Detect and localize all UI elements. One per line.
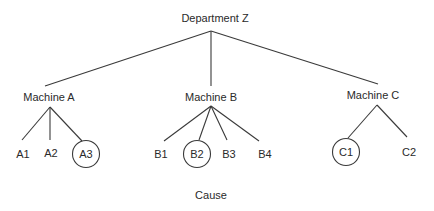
- node-c2: C2: [402, 146, 416, 158]
- node-machine-b: Machine B: [185, 91, 237, 103]
- edge-machine-a-to-a1: [22, 107, 50, 140]
- tree-edges: [0, 0, 434, 211]
- node-machine-c: Machine C: [347, 89, 400, 101]
- tree-diagram: Department Z Machine A Machine B Machine…: [0, 0, 434, 211]
- edge-machine-c-to-c1: [348, 105, 377, 138]
- node-a3: A3: [79, 148, 92, 160]
- edge-machine-a-to-a3: [50, 107, 82, 141]
- edge-machine-b-to-b1: [164, 106, 211, 141]
- edge-machine-b-to-b4: [211, 106, 259, 141]
- caption-cause: Cause: [195, 189, 227, 201]
- node-machine-a: Machine A: [23, 91, 74, 103]
- node-b4: B4: [258, 148, 271, 160]
- edge-machine-b-to-b3: [211, 106, 227, 140]
- edge-dept-to-machine-a: [45, 31, 211, 86]
- node-a2: A2: [44, 147, 57, 159]
- node-c1: C1: [339, 146, 353, 158]
- node-b2: B2: [190, 148, 203, 160]
- node-department-z: Department Z: [181, 12, 248, 24]
- node-a1: A1: [16, 148, 29, 160]
- node-b3: B3: [222, 148, 235, 160]
- node-b1: B1: [154, 148, 167, 160]
- edge-machine-c-to-c2: [377, 105, 407, 137]
- edge-dept-to-machine-c: [211, 31, 378, 84]
